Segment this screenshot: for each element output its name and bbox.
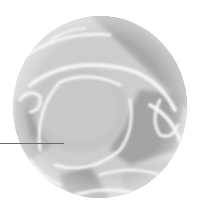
magnified-disc-image (0, 0, 201, 209)
disc-texture (0, 0, 201, 209)
leader-line (0, 143, 64, 144)
figure (0, 0, 201, 209)
